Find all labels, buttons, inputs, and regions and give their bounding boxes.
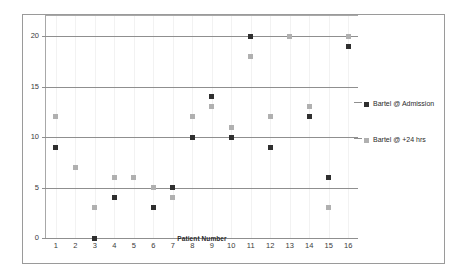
data-point xyxy=(131,175,136,180)
y-tick-label: 10 xyxy=(13,133,39,141)
data-point xyxy=(326,175,331,180)
x-tick-label: 2 xyxy=(65,242,85,250)
data-point xyxy=(229,125,234,130)
legend-leader-line xyxy=(354,138,362,139)
x-tick-label: 11 xyxy=(241,242,261,250)
x-gridline xyxy=(212,16,213,238)
legend-item-admission[interactable]: Bartel @ Admission xyxy=(364,100,434,108)
y-tick-mark xyxy=(42,36,46,37)
y-gridline xyxy=(46,188,358,189)
x-gridline xyxy=(192,16,193,238)
x-tick-label: 5 xyxy=(124,242,144,250)
y-gridline xyxy=(46,87,358,88)
x-gridline xyxy=(270,16,271,238)
x-tick-label: 14 xyxy=(299,242,319,250)
x-tick-label: 12 xyxy=(260,242,280,250)
data-point xyxy=(209,104,214,109)
y-tick-mark xyxy=(42,188,46,189)
x-tick-label: 4 xyxy=(104,242,124,250)
data-point xyxy=(248,54,253,59)
data-point xyxy=(92,205,97,210)
legend-item-24hrs[interactable]: Bartel @ +24 hrs xyxy=(364,136,426,144)
legend-swatch-admission-icon xyxy=(364,102,369,107)
data-point xyxy=(229,135,234,140)
x-tick-label: 10 xyxy=(221,242,241,250)
legend-swatch-24hrs-icon xyxy=(364,138,369,143)
x-tick-label: 6 xyxy=(143,242,163,250)
x-axis-title: Patient Number xyxy=(46,235,358,242)
data-point xyxy=(53,114,58,119)
x-tick-label: 13 xyxy=(280,242,300,250)
chart-figure: 0510152012345678910111213141516 Patient … xyxy=(0,0,468,279)
y-gridline xyxy=(46,137,358,138)
legend-label-admission: Bartel @ Admission xyxy=(373,100,434,108)
data-point xyxy=(307,104,312,109)
data-point xyxy=(307,114,312,119)
y-tick-mark xyxy=(42,137,46,138)
data-point xyxy=(170,185,175,190)
y-tick-label: 5 xyxy=(13,184,39,192)
data-point xyxy=(209,94,214,99)
x-gridline xyxy=(173,16,174,238)
data-point xyxy=(112,195,117,200)
x-gridline xyxy=(114,16,115,238)
x-tick-label: 9 xyxy=(202,242,222,250)
data-point xyxy=(170,195,175,200)
y-tick-label: 0 xyxy=(13,234,39,242)
data-point xyxy=(268,114,273,119)
data-point xyxy=(73,165,78,170)
plot-area: 0510152012345678910111213141516 xyxy=(46,16,358,238)
y-tick-label: 15 xyxy=(13,83,39,91)
x-tick-label: 7 xyxy=(163,242,183,250)
data-point xyxy=(151,185,156,190)
x-gridline xyxy=(348,16,349,238)
y-tick-mark xyxy=(42,87,46,88)
x-tick-label: 8 xyxy=(182,242,202,250)
data-point xyxy=(248,34,253,39)
legend-label-24hrs: Bartel @ +24 hrs xyxy=(373,136,426,144)
data-point xyxy=(53,145,58,150)
data-point xyxy=(190,114,195,119)
x-tick-label: 1 xyxy=(46,242,66,250)
data-point xyxy=(190,135,195,140)
y-tick-label: 20 xyxy=(13,32,39,40)
x-gridline xyxy=(75,16,76,238)
x-gridline xyxy=(251,16,252,238)
data-point xyxy=(287,34,292,39)
x-gridline xyxy=(290,16,291,238)
x-gridline xyxy=(309,16,310,238)
data-point xyxy=(268,145,273,150)
data-point xyxy=(326,205,331,210)
x-tick-label: 16 xyxy=(338,242,358,250)
y-gridline xyxy=(46,36,358,37)
legend-leader-line xyxy=(354,102,362,103)
data-point xyxy=(346,34,351,39)
x-tick-label: 15 xyxy=(319,242,339,250)
data-point xyxy=(151,205,156,210)
x-tick-label: 3 xyxy=(85,242,105,250)
x-gridline xyxy=(56,16,57,238)
data-point xyxy=(346,44,351,49)
x-gridline xyxy=(134,16,135,238)
chart-legend: Bartel @ Admission Bartel @ +24 hrs xyxy=(364,14,444,264)
data-point xyxy=(112,175,117,180)
